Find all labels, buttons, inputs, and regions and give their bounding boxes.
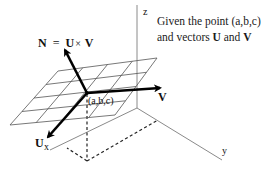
u-symbol: U — [65, 36, 74, 50]
z-axis-label: z — [143, 7, 147, 17]
equation-label: N = U×V — [38, 37, 93, 49]
vector-n — [65, 50, 87, 93]
caption-u: U — [213, 31, 221, 43]
x-axis — [50, 108, 137, 150]
caption-line-1: Given the point (a,b,c) — [157, 13, 261, 29]
x-axis-label: x — [44, 142, 49, 152]
u-vector-label: U — [35, 137, 44, 149]
equals-sign: = — [53, 36, 60, 50]
vector-u — [48, 93, 87, 137]
y-axis-label: y — [222, 146, 227, 156]
cross-symbol: × — [75, 38, 81, 49]
projection-to-x — [67, 148, 87, 161]
caption-text: Given the point (a,b,c) and vectors U an… — [157, 13, 261, 45]
caption-v: V — [243, 31, 251, 43]
caption-prefix: and vectors — [157, 31, 213, 43]
projection-to-y — [87, 120, 158, 161]
point-label: (a,b,c) — [88, 96, 114, 106]
caption-line-2: and vectors U and V — [157, 29, 261, 45]
n-symbol: N — [38, 36, 47, 50]
caption-and: and — [221, 31, 243, 43]
y-axis — [137, 108, 222, 160]
tangent-plane-grid — [10, 58, 157, 125]
v-vector-label: V — [158, 91, 167, 103]
v-symbol: V — [85, 36, 94, 50]
